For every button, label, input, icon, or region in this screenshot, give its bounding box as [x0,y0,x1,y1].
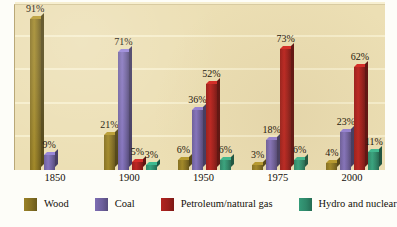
bar-value-label: 6% [177,144,190,155]
legend-item[interactable]: Wood [24,198,69,211]
bar-value-label: 3% [251,149,264,160]
bar: 21% [104,135,115,170]
bar-value-label: 71% [114,36,132,47]
legend-item[interactable]: Hydro and nuclear [299,198,397,211]
bar: 73% [280,49,291,170]
bar-value-label: 73% [277,33,295,44]
bar-side [231,154,234,167]
bar-face [220,160,231,170]
chart-figure: 91%9%21%71%5%3%6%36%52%6%3%18%73%6%4%23%… [0,0,397,227]
bar-face [146,165,157,170]
x-axis-tick-label: 1950 [193,172,214,184]
bar-face [280,49,291,170]
legend-swatch-icon [95,198,108,211]
bar-face [354,67,365,170]
chart-legend: WoodCoalPetroleum/natural gasHydro and n… [14,192,385,216]
bar-face [178,160,189,170]
bar-side [55,149,58,167]
x-axis-tick-label: 2000 [341,172,362,184]
bar-value-label: 3% [145,149,158,160]
bar: 3% [146,165,157,170]
bar-face [266,140,277,170]
gridline [15,35,385,37]
gridline [15,68,385,70]
bar: 6% [178,160,189,170]
bar-side [305,154,308,167]
bar-face [104,135,115,170]
legend-item[interactable]: Petroleum/natural gas [161,198,273,211]
bar: 6% [220,160,231,170]
gridline [15,2,385,4]
bar-face [340,132,351,170]
bar-value-label: 23% [337,116,355,127]
bar-value-label: 91% [26,3,44,14]
bar: 4% [326,163,337,170]
legend-swatch-icon [161,198,174,211]
bar: 6% [294,160,305,170]
bar: 52% [206,84,217,170]
legend-swatch-icon [299,198,312,211]
bar: 36% [192,110,203,170]
bar-value-label: 5% [131,146,144,157]
bar-face [30,19,41,170]
bar-face [44,155,55,170]
bar-value-label: 52% [202,68,220,79]
bar-face [192,110,203,170]
bar-value-label: 36% [188,94,206,105]
legend-swatch-icon [24,198,37,211]
bar-side [379,146,382,167]
legend-label: Hydro and nuclear [319,198,397,210]
bar-face [326,163,337,170]
legend-item[interactable]: Coal [95,198,135,211]
bar-value-label: 62% [351,51,369,62]
bar: 3% [252,165,263,170]
x-axis-tick-label: 1900 [119,172,140,184]
bar: 5% [132,162,143,170]
bar-face [206,84,217,170]
bar: 18% [266,140,277,170]
bar-face [294,160,305,170]
x-axis-tick-label: 1975 [267,172,288,184]
bar: 62% [354,67,365,170]
bar-value-label: 6% [219,144,232,155]
bar-value-label: 9% [42,139,55,150]
bar-value-label: 11% [365,136,383,147]
bar-value-label: 18% [263,124,281,135]
bar: 11% [368,152,379,170]
bar-face [252,165,263,170]
bar: 71% [118,52,129,170]
bar-value-label: 4% [325,147,338,158]
bar-face [368,152,379,170]
bar-value-label: 21% [100,119,118,130]
legend-label: Coal [115,198,135,210]
legend-label: Wood [44,198,69,210]
legend-label: Petroleum/natural gas [181,198,273,210]
bar-value-label: 6% [293,144,306,155]
plot-area: 91%9%21%71%5%3%6%36%52%6%3%18%73%6%4%23%… [14,4,385,170]
bar: 91% [30,19,41,170]
bar-face [132,162,143,170]
x-axis-tick-label: 1850 [45,172,66,184]
bar-side [157,159,160,167]
bar-face [118,52,129,170]
bar: 23% [340,132,351,170]
bar: 9% [44,155,55,170]
